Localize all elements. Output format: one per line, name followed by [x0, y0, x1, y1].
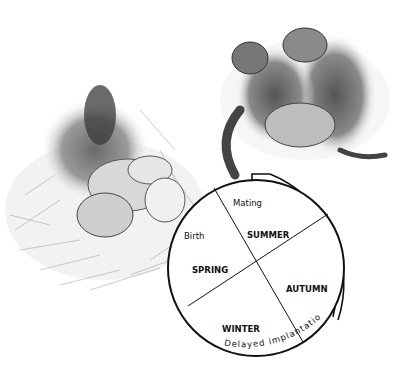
- event-birth: Birth: [184, 231, 204, 241]
- event-mating: Mating: [233, 198, 262, 208]
- season-summer: SUMMER: [247, 230, 290, 240]
- life-cycle-diagram: Mating Birth SUMMER AUTUMN WINTER SPRING…: [0, 0, 415, 376]
- mating-pair-illustration: [220, 28, 390, 175]
- season-spring: SPRING: [192, 265, 228, 275]
- season-winter: WINTER: [222, 324, 260, 334]
- season-autumn: AUTUMN: [286, 284, 328, 294]
